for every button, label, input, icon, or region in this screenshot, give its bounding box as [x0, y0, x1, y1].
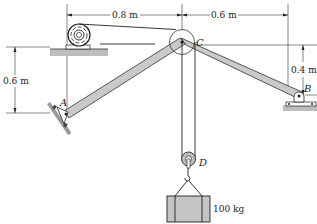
cable-winch-to-c — [79, 24, 176, 44]
dimension-label-0-8m: 0.8 m — [112, 10, 138, 20]
truss-pulley-diagram: 0.8 m 0.6 m 0.6 m 0.4 m — [0, 0, 317, 224]
hook-icon — [175, 168, 202, 196]
point-label-b: B — [303, 83, 311, 94]
cable-c-to-d — [182, 42, 195, 158]
point-label-a: A — [59, 97, 67, 108]
dimension-label-0-6m-top: 0.6 m — [211, 10, 237, 20]
winch-ground — [50, 45, 108, 56]
mass-label: 100 kg — [213, 204, 244, 214]
point-label-c: C — [196, 37, 204, 48]
pulley-d-icon — [182, 152, 196, 168]
point-label-d: D — [198, 157, 207, 168]
crate-100kg — [167, 196, 210, 222]
dimension-label-0-6m-left: 0.6 m — [3, 76, 29, 86]
winch-drum-icon — [68, 24, 90, 46]
dimension-label-0-4m: 0.4 m — [291, 65, 317, 75]
